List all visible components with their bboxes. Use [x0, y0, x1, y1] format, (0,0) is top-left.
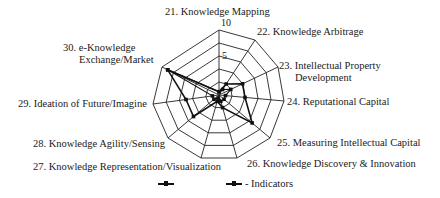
data-point-marker: [229, 88, 233, 92]
data-point-marker: [212, 98, 216, 102]
axis-label-27: 27. Knowledge Representation/Visualizati…: [33, 161, 221, 173]
axis-label-28: 28. Knowledge Agility/Sensing: [33, 138, 165, 150]
axis-label-30-line2: Exchange/Market: [63, 54, 154, 66]
axis-label-23-line1: 23. Intellectual Property: [279, 60, 381, 72]
axis-spoke: [219, 95, 270, 138]
tick-label-5: 5: [222, 51, 227, 61]
legend-marker-indicators-icon: [226, 178, 242, 190]
data-point-marker: [219, 100, 223, 104]
axis-label-30-line1: 30. e-Knowledge: [63, 42, 154, 54]
axis-label-21: 21. Knowledge Mapping: [165, 6, 270, 18]
legend-marker-series-1-icon: [158, 178, 174, 190]
axis-label-22: 22. Knowledge Arbitrage: [257, 26, 363, 38]
data-point-marker: [243, 96, 247, 100]
data-point-marker: [216, 96, 220, 100]
radar-spokes: [153, 30, 284, 158]
axis-label-26: 26. Knowledge Discovery & Innovation: [247, 158, 416, 170]
axis-label-30: 30. e-Knowledge Exchange/Market: [63, 42, 154, 66]
data-point-marker: [211, 94, 215, 98]
data-point-marker: [241, 82, 245, 86]
data-point-marker: [217, 90, 221, 94]
data-point-marker: [221, 106, 225, 110]
axis-label-23: 23. Intellectual Property Development: [279, 60, 381, 84]
axis-spoke: [219, 95, 284, 101]
data-point-marker: [221, 88, 225, 92]
radar-grid: [153, 30, 284, 158]
data-point-marker: [224, 94, 228, 98]
data-point-marker: [166, 68, 170, 72]
legend-label-indicators: - Indicators: [245, 178, 293, 190]
chart-legend: - Indicators: [158, 178, 293, 190]
data-point-marker: [215, 100, 219, 104]
tick-label-10: 10: [221, 18, 231, 28]
data-point-marker: [222, 98, 226, 102]
data-point-marker: [192, 115, 196, 119]
axis-label-25: 25. Measuring Intellectual Capital: [277, 137, 420, 149]
axis-label-24: 24. Reputational Capital: [287, 96, 389, 108]
data-point-marker: [184, 98, 188, 102]
axis-label-23-line2: Development: [279, 72, 381, 84]
grid-ring: [153, 30, 284, 158]
axis-label-29: 29. Ideation of Future/Imagine: [18, 98, 147, 110]
data-point-marker: [250, 121, 254, 125]
data-point-marker: [224, 82, 228, 86]
